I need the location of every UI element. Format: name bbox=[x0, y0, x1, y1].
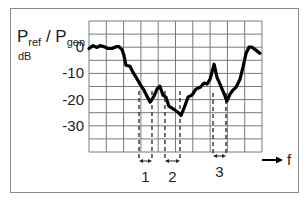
band-label: 2 bbox=[168, 168, 176, 185]
y-unit-label: dB bbox=[18, 50, 31, 62]
arrow-left-icon bbox=[139, 159, 143, 163]
arrow-right-icon bbox=[222, 154, 226, 158]
x-axis-arrow bbox=[262, 157, 283, 164]
y-label-separator: / P bbox=[41, 27, 67, 46]
band-3: 3 bbox=[213, 91, 226, 180]
y-label-p: P bbox=[17, 27, 28, 46]
chart: 123 Pref / Pgen dB f 0-10-20-30 bbox=[0, 0, 307, 202]
band-label: 3 bbox=[215, 163, 223, 180]
y-tick-labels: 0-10-20-30 bbox=[62, 38, 84, 134]
y-tick-label: -20 bbox=[62, 91, 84, 108]
arrow-right-icon bbox=[276, 157, 283, 164]
band-label: 1 bbox=[141, 168, 149, 185]
arrow-right-icon bbox=[176, 159, 180, 163]
x-axis-label: f bbox=[287, 151, 292, 168]
y-tick-label: -10 bbox=[62, 64, 84, 81]
bands: 123 bbox=[139, 91, 226, 185]
arrow-left-icon bbox=[213, 154, 217, 158]
y-label-ref-subscript: ref bbox=[28, 36, 42, 48]
y-tick-label: 0 bbox=[76, 38, 84, 55]
y-tick-label: -30 bbox=[62, 117, 84, 134]
arrow-right-icon bbox=[148, 159, 152, 163]
series-line bbox=[89, 46, 260, 116]
arrow-left-icon bbox=[165, 159, 169, 163]
